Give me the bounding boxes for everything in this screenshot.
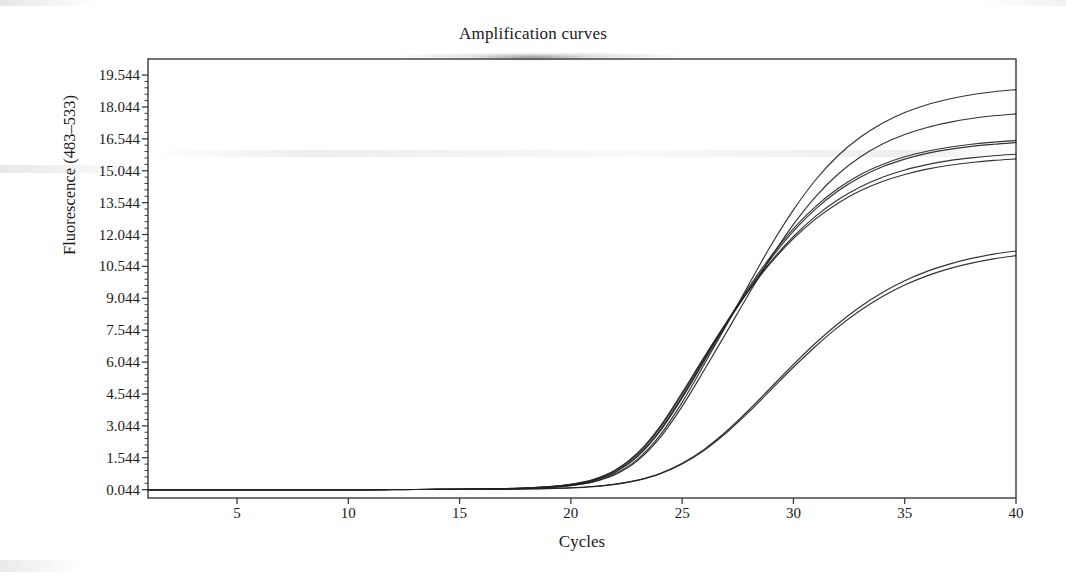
amplification-curve — [148, 251, 1016, 490]
amplification-curve — [148, 90, 1016, 490]
curve-group — [148, 90, 1016, 490]
amplification-curve — [148, 141, 1016, 490]
amplification-curve — [148, 154, 1016, 489]
x-axis-title: Cycles — [148, 532, 1016, 552]
amplification-curve — [148, 114, 1016, 490]
amplification-curve — [148, 159, 1016, 490]
plot-frame — [148, 59, 1016, 498]
amplification-curves-figure: Amplification curves Fluorescence (483–5… — [0, 0, 1066, 577]
amplification-curve — [148, 143, 1016, 490]
plot-canvas — [0, 0, 1066, 577]
